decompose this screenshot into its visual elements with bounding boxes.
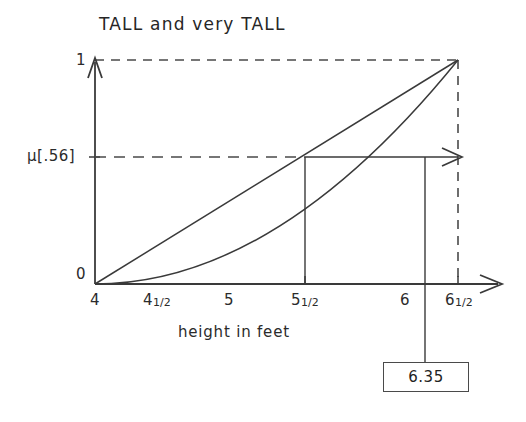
x-tick-label-4-half: 41/2	[143, 291, 171, 309]
figure-container: TALL and very TALL 1 μ[.56]	[0, 0, 526, 422]
x-tick-label-6: 6	[400, 291, 410, 309]
series-tall-line	[95, 60, 458, 284]
x-tick-label-5: 5	[224, 291, 234, 309]
x-tick-label-6-main: 6	[400, 291, 410, 309]
x-tick-label-4-main: 4	[90, 291, 100, 309]
x-tick-label-6-half-main: 6	[445, 291, 455, 309]
x-tick-label-4-half-frac: 1/2	[153, 296, 171, 309]
x-axis-title: height in feet	[178, 323, 290, 341]
y-tick-label-top: 1	[76, 51, 86, 69]
callout-value-box: 6.35	[383, 362, 469, 392]
x-tick-label-5-half-main: 5	[291, 291, 301, 309]
y-tick-label-zero: 0	[76, 265, 86, 283]
x-tick-label-4-half-main: 4	[143, 291, 153, 309]
x-tick-label-5-half: 51/2	[291, 291, 319, 309]
x-tick-label-6-half: 61/2	[445, 291, 473, 309]
x-tick-label-4: 4	[90, 291, 100, 309]
x-tick-label-6-half-frac: 1/2	[455, 296, 473, 309]
y-tick-label-mu: μ[.56]	[27, 147, 75, 165]
x-tick-label-5-main: 5	[224, 291, 234, 309]
x-tick-label-5-half-frac: 1/2	[301, 296, 319, 309]
